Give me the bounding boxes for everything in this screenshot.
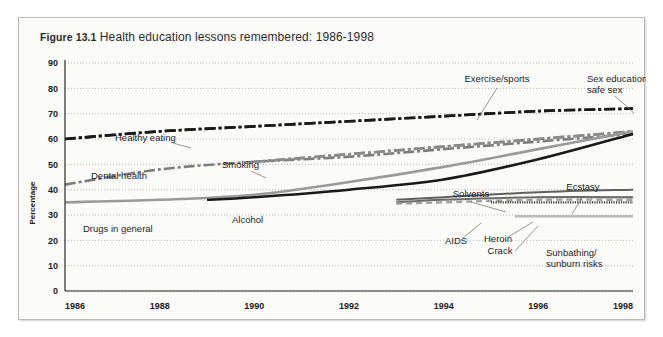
x-tick-label: 1998 (613, 301, 633, 311)
series-label: Heroin (484, 233, 512, 244)
series-group (65, 109, 633, 217)
y-tick-label: 80 (48, 84, 58, 94)
series-label: Solvents (453, 188, 490, 199)
x-tick-label: 1988 (150, 301, 170, 311)
line-chart: 0102030405060708090 19861988199019921994… (19, 18, 646, 321)
series-label: Ecstasy (566, 181, 600, 192)
series-label: Sex education/ (587, 73, 646, 84)
y-tick-label: 60 (48, 134, 58, 144)
series-label: Dental health (91, 170, 147, 181)
series-labels-group: Healthy eatingDental healthSmokingExerci… (83, 73, 646, 269)
x-tick-label: 1990 (244, 301, 264, 311)
series-label: Smoking (222, 159, 259, 170)
series-line (254, 131, 633, 161)
y-tick-label: 30 (48, 210, 58, 220)
x-tick-label: 1992 (339, 301, 359, 311)
y-tick-label: 70 (48, 109, 58, 119)
x-tick-label: 1996 (528, 301, 548, 311)
y-tick-label: 20 (48, 236, 58, 246)
y-tick-label: 40 (48, 185, 58, 195)
series-label: Healthy eating (115, 132, 176, 143)
y-tick-label: 0 (53, 286, 58, 296)
series-label: Exercise/sports (465, 73, 530, 84)
series-label: Crack (488, 245, 513, 256)
series-label: Sunbathing/ (546, 247, 597, 258)
series-label: Alcohol (232, 214, 263, 225)
y-tick-label: 50 (48, 160, 58, 170)
series-label: Drugs in general (83, 223, 153, 234)
series-label-leader (615, 96, 634, 113)
x-tick-labels-group: 1986198819901992199419961998 (65, 301, 633, 311)
y-tick-labels-group: 0102030405060708090 (48, 58, 58, 296)
series-label-leader (251, 171, 266, 178)
chart-plot-area: 0102030405060708090 19861988199019921994… (19, 18, 646, 321)
x-tick-label: 1986 (65, 301, 85, 311)
series-label: AIDS (445, 235, 467, 246)
y-axis-title: Percentage (28, 181, 37, 225)
figure-panel: Figure 13.1 Health education lessons rem… (18, 17, 645, 320)
series-label-leader (515, 226, 538, 251)
y-tick-label: 10 (48, 261, 58, 271)
y-tick-label: 90 (48, 58, 58, 68)
series-label-line2: safe sex (587, 84, 623, 95)
series-label-leader (477, 88, 497, 120)
series-label-leader (173, 143, 191, 148)
x-tick-label: 1994 (434, 301, 454, 311)
series-label-line2: sunburn risks (546, 258, 603, 269)
